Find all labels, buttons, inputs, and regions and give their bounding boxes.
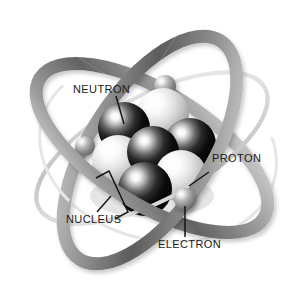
atom-diagram-canvas: NEUTRON PROTON NUCLEUS ELECTRON (0, 0, 303, 295)
label-nucleus: NUCLEUS (66, 213, 121, 225)
label-neutron: NEUTRON (73, 83, 130, 95)
atom-diagram: NEUTRON PROTON NUCLEUS ELECTRON (0, 0, 303, 295)
label-proton: PROTON (212, 152, 261, 164)
label-electron: ELECTRON (158, 238, 221, 250)
